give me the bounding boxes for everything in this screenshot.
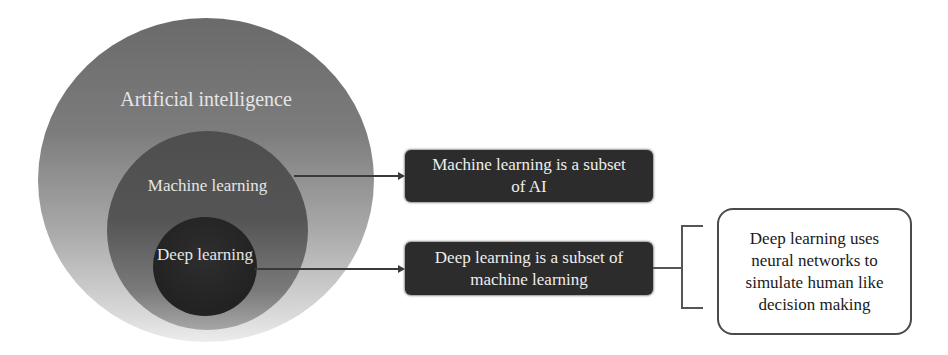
label-deep-learning: Deep learning	[153, 244, 257, 265]
connector-dl-arrow-line	[255, 268, 398, 270]
arrowhead-icon	[398, 265, 405, 273]
label-machine-learning: Machine learning	[107, 176, 308, 196]
callout-dl-text: Deep learning is a subset of machine lea…	[417, 247, 642, 291]
bracket-vertical-line	[681, 225, 683, 309]
note-deep-learning-description: Deep learning uses neural networks to si…	[717, 208, 912, 335]
bracket-bottom-tick	[681, 307, 703, 309]
arrowhead-icon	[398, 172, 405, 180]
callout-dl-subset-of-ml: Deep learning is a subset of machine lea…	[405, 242, 653, 295]
connector-ml-arrow-line	[294, 175, 398, 177]
bracket-top-tick	[681, 225, 703, 227]
label-artificial-intelligence: Artificial intelligence	[38, 88, 374, 111]
callout-ml-subset-of-ai: Machine learning is a subset of AI	[405, 150, 653, 202]
circle-deep-learning	[153, 217, 257, 316]
bracket-stub-line	[653, 267, 682, 269]
callout-ml-text: Machine learning is a subset of AI	[429, 154, 629, 198]
note-text: Deep learning uses neural networks to si…	[730, 228, 900, 316]
